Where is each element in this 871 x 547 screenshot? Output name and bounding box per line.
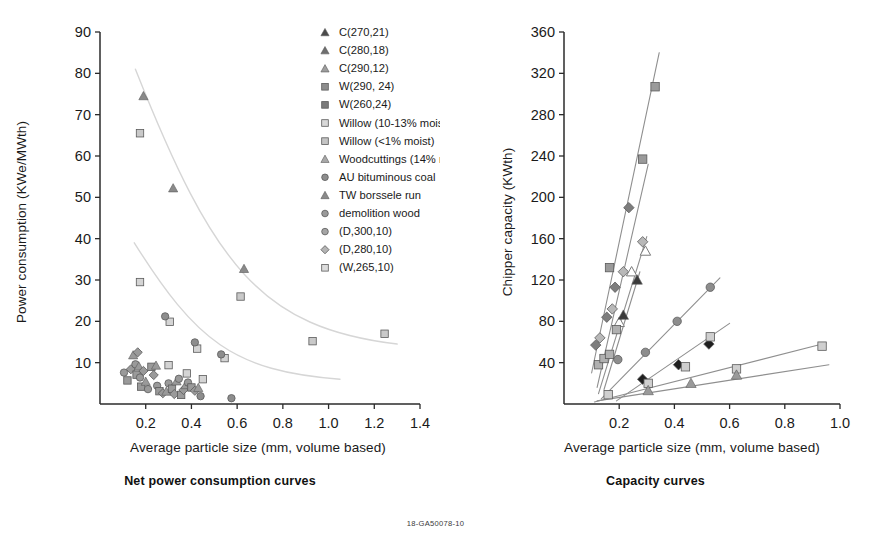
legend-item-label: W(290, 24): [339, 80, 395, 92]
data-point: [161, 313, 168, 320]
y-axis-tick-label: 10: [75, 355, 91, 371]
data-point: [673, 317, 681, 325]
x-axis-tick-label: 1.0: [318, 415, 338, 431]
data-point: [197, 392, 204, 399]
x-axis-tick-label: 1.0: [830, 415, 850, 431]
legend-marker-square-icon: [322, 102, 329, 109]
legend-item[interactable]: C(280,18): [321, 44, 389, 56]
legend-item-label: C(290,12): [339, 62, 389, 74]
legend-item[interactable]: TW borssele run: [321, 189, 421, 201]
legend-marker-triangle-icon: [321, 28, 329, 35]
data-point: [228, 395, 235, 402]
data-point: [706, 333, 714, 341]
right-chart-svg: 40801201602002402803203600.20.40.60.81.0…: [440, 0, 871, 470]
data-point: [144, 385, 151, 392]
legend-item[interactable]: C(290,12): [321, 62, 389, 74]
legend-item-label: Willow (<1% moist): [339, 135, 435, 147]
legend-marker-square-icon: [322, 265, 329, 272]
legend-item[interactable]: (D,280,10): [321, 243, 392, 255]
x-axis-tick-label: 1.2: [364, 415, 384, 431]
legend-item-label: demolition wood: [339, 207, 420, 219]
data-point: [681, 363, 689, 371]
y-axis-tick-label: 90: [75, 24, 91, 40]
x-axis-tick-label: 0.6: [227, 415, 247, 431]
figure-root: 1020304050607080900.20.40.60.81.01.21.4 …: [0, 0, 871, 547]
legend-item[interactable]: (D,300,10): [322, 225, 392, 237]
data-point: [136, 278, 143, 285]
legend-marker-triangle-icon: [321, 155, 329, 162]
legend-item[interactable]: Willow (10-13% moist): [322, 117, 440, 129]
legend-marker-diamond-icon: [321, 246, 329, 254]
data-point: [124, 377, 131, 384]
y-axis-tick-label: 80: [75, 65, 91, 81]
legend-marker-triangle-icon: [321, 65, 329, 72]
data-point: [640, 246, 650, 255]
data-point: [641, 348, 649, 356]
legend-item-label: C(280,18): [339, 44, 389, 56]
y-axis-tick-label: 320: [531, 65, 555, 81]
y-axis-tick-label: 40: [539, 355, 555, 371]
y-axis-tick-label: 160: [531, 231, 555, 247]
x-axis-tick-label: 0.8: [775, 415, 795, 431]
legend-item-label: W(260,24): [339, 98, 392, 110]
data-point: [686, 378, 696, 387]
data-point: [136, 130, 143, 137]
footer-code: 18-GA50078-10: [0, 519, 871, 528]
data-point: [199, 376, 206, 383]
data-point: [237, 293, 244, 300]
y-axis-tick-label: 360: [531, 24, 555, 40]
legend-marker-square-icon: [322, 120, 329, 127]
legend-marker-circle-icon: [322, 210, 329, 217]
legend-item-label: TW borssele run: [339, 189, 421, 201]
legend-item-label: (D,300,10): [339, 225, 392, 237]
legend-item[interactable]: (W,265,10): [322, 261, 394, 273]
y-axis-tick-label: 50: [75, 189, 91, 205]
legend-item-label: (D,280,10): [339, 243, 392, 255]
legend-marker-square-icon: [322, 84, 329, 91]
caption-left: Net power consumption curves: [0, 474, 440, 488]
y-axis-tick-label: 80: [539, 313, 555, 329]
y-axis-title-right: Chipper capacity (KWth): [500, 148, 515, 297]
data-point: [638, 155, 646, 163]
data-point: [175, 375, 182, 382]
y-axis-title-left: Power consumption (KWe/MWth): [14, 121, 29, 323]
x-axis-tick-label: 0.2: [609, 415, 629, 431]
legend-item[interactable]: Willow (<1% moist): [322, 135, 435, 147]
x-axis-tick-label: 0.6: [720, 415, 740, 431]
legend-marker-circle-icon: [322, 174, 329, 181]
data-point: [239, 264, 248, 272]
legend-item[interactable]: W(260,24): [322, 98, 392, 110]
legend-item-label: AU bituminous coal: [339, 171, 435, 183]
trendline: [594, 343, 826, 402]
caption-right: Capacity curves: [440, 474, 871, 488]
legend-item[interactable]: AU bituminous coal: [322, 171, 436, 183]
legend-item-label: C(270,21): [339, 26, 389, 38]
y-axis-tick-label: 30: [75, 272, 91, 288]
data-point: [169, 184, 178, 192]
data-point: [605, 263, 613, 271]
legend-item[interactable]: W(290, 24): [322, 80, 395, 92]
data-point: [381, 330, 388, 337]
data-point: [604, 391, 612, 399]
y-axis-tick-label: 200: [531, 189, 555, 205]
y-axis-tick-label: 280: [531, 107, 555, 123]
data-point: [818, 342, 826, 350]
legend-item[interactable]: C(270,21): [321, 26, 389, 38]
legend-item[interactable]: demolition wood: [322, 207, 420, 219]
data-point: [183, 370, 190, 377]
legend-marker-circle-icon: [322, 228, 329, 235]
legend-item[interactable]: Woodcuttings (14% moist): [321, 153, 440, 165]
y-axis-tick-label: 20: [75, 313, 91, 329]
x-axis-tick-label: 0.8: [273, 415, 293, 431]
x-axis-title-left: Average particle size (mm, volume based): [130, 440, 386, 455]
y-axis-tick-label: 70: [75, 107, 91, 123]
x-axis-title-right: Average particle size (mm, volume based): [564, 440, 820, 455]
trendline: [597, 365, 829, 401]
panel-net-power-consumption: 1020304050607080900.20.40.60.81.01.21.4 …: [0, 0, 440, 547]
data-point: [309, 337, 316, 344]
legend-marker-square-icon: [322, 138, 329, 145]
x-axis-tick-label: 1.4: [410, 415, 430, 431]
y-axis-tick-label: 60: [75, 148, 91, 164]
data-point: [614, 355, 622, 363]
data-point: [149, 370, 158, 379]
